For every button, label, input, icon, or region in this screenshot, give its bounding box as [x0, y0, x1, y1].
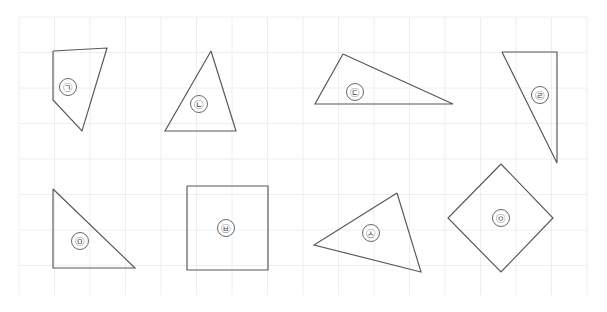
shape-label-circled-siot: ㉦	[366, 228, 376, 239]
shape-label-circled-mieum: ㉤	[75, 236, 85, 247]
shapes-layer: ㉠㉡㉢㉣㉤㉥㉦㉧	[0, 0, 607, 312]
shape-outline-right-triangle[interactable]	[53, 189, 135, 268]
shape-group-8[interactable]: ㉧	[448, 164, 553, 272]
shape-group-7[interactable]: ㉦	[314, 193, 421, 272]
shape-group-1[interactable]: ㉠	[53, 48, 107, 131]
shape-label-circled-ieung: ㉧	[496, 213, 506, 224]
shape-group-5[interactable]: ㉤	[53, 189, 135, 268]
shape-label-circled-giyeok: ㉠	[63, 82, 73, 93]
shape-group-4[interactable]: ㉣	[502, 52, 557, 163]
shape-outline-triangle[interactable]	[165, 51, 236, 131]
shape-label-circled-digeut: ㉢	[350, 87, 360, 98]
worksheet-canvas: ㉠㉡㉢㉣㉤㉥㉦㉧	[0, 0, 607, 312]
shape-label-circled-bieup: ㉥	[221, 223, 231, 234]
shape-group-3[interactable]: ㉢	[315, 54, 453, 104]
shape-label-circled-rieul: ㉣	[535, 90, 545, 101]
shape-group-2[interactable]: ㉡	[165, 51, 236, 131]
shape-group-6[interactable]: ㉥	[187, 186, 268, 270]
shape-outline-triangle[interactable]	[502, 52, 557, 163]
shape-label-circled-nieun: ㉡	[194, 99, 204, 110]
shape-outline-triangle[interactable]	[315, 54, 453, 104]
